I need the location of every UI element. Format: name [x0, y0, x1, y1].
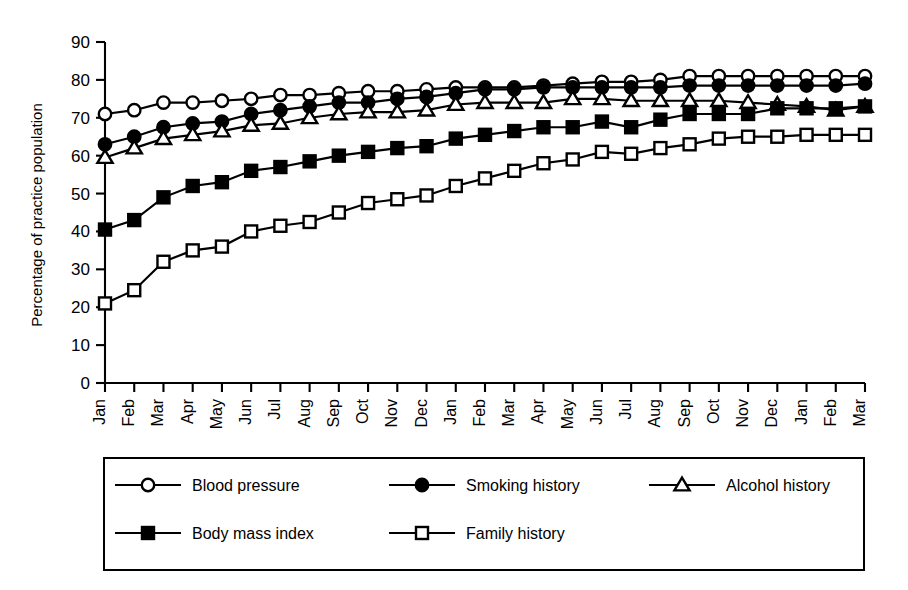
- x-tick-label: Nov: [734, 399, 751, 427]
- legend-item[interactable]: Family history: [389, 525, 565, 542]
- data-point-marker: [128, 214, 140, 226]
- legend-border: [104, 458, 864, 570]
- x-tick-label: Oct: [354, 398, 371, 423]
- x-tick-label: Feb: [120, 399, 137, 427]
- x-tick-label: Dec: [763, 399, 780, 427]
- x-tick-label: Sep: [676, 399, 693, 428]
- data-point-marker: [304, 216, 316, 228]
- x-tick-label: Feb: [471, 399, 488, 427]
- y-tick-label: 90: [71, 33, 90, 52]
- data-point-marker: [771, 79, 783, 91]
- data-point-marker: [830, 129, 842, 141]
- data-point-marker: [859, 100, 871, 112]
- data-point-marker: [187, 180, 199, 192]
- x-tick-label: Apr: [529, 398, 546, 424]
- data-point-marker: [304, 155, 316, 167]
- data-point-marker: [713, 133, 725, 145]
- data-point-marker: [274, 220, 286, 232]
- data-point-marker: [537, 157, 549, 169]
- data-point-marker: [157, 191, 169, 203]
- chart-svg: Percentage of practice population 010203…: [0, 0, 908, 590]
- data-point-marker: [800, 79, 812, 91]
- data-point-marker: [684, 138, 696, 150]
- data-point-marker: [830, 79, 842, 91]
- data-point-marker: [859, 129, 871, 141]
- data-point-marker: [830, 102, 842, 114]
- data-point-marker: [771, 131, 783, 143]
- x-tick-label: Jan: [91, 399, 108, 425]
- data-point-marker: [187, 244, 199, 256]
- data-point-marker: [391, 142, 403, 154]
- y-tick-label: 50: [71, 185, 90, 204]
- x-tick-label: Jan: [442, 399, 459, 425]
- data-point-marker: [216, 95, 228, 107]
- data-point-marker: [333, 207, 345, 219]
- data-point-marker: [362, 146, 374, 158]
- data-point-marker: [128, 104, 140, 116]
- x-tick-label: Feb: [822, 399, 839, 427]
- legend-item[interactable]: Blood pressure: [115, 477, 300, 494]
- data-point-marker: [157, 256, 169, 268]
- legend-item[interactable]: Body mass index: [115, 525, 314, 542]
- data-point-marker: [684, 108, 696, 120]
- y-tick-label: 60: [71, 147, 90, 166]
- data-point-marker: [245, 225, 257, 237]
- data-point-marker: [508, 125, 520, 137]
- data-point-marker: [801, 129, 813, 141]
- data-point-marker: [537, 121, 549, 133]
- data-point-marker: [157, 96, 169, 108]
- y-tick-label: 80: [71, 71, 90, 90]
- data-point-marker: [567, 121, 579, 133]
- legend-marker: [142, 527, 154, 539]
- data-point-marker: [274, 161, 286, 173]
- data-point-marker: [801, 102, 813, 114]
- series-line: [105, 135, 865, 304]
- data-point-marker: [683, 79, 695, 91]
- data-point-marker: [771, 102, 783, 114]
- chart-series: [99, 129, 871, 310]
- data-point-marker: [742, 131, 754, 143]
- legend-marker: [416, 479, 428, 491]
- data-point-marker: [654, 142, 666, 154]
- x-tick-label: Dec: [413, 399, 430, 427]
- x-tick-label: Sep: [325, 399, 342, 428]
- data-point-marker: [99, 108, 111, 120]
- data-point-marker: [596, 116, 608, 128]
- data-point-marker: [333, 150, 345, 162]
- x-tick-label: Mar: [500, 398, 517, 426]
- chart-legend: Blood pressureSmoking historyAlcohol his…: [104, 458, 864, 570]
- y-axis-title: Percentage of practice population: [28, 103, 45, 326]
- data-point-marker: [596, 146, 608, 158]
- y-tick-label: 0: [81, 374, 90, 393]
- x-tick-label: Apr: [179, 398, 196, 424]
- data-point-marker: [742, 108, 754, 120]
- data-point-marker: [479, 172, 491, 184]
- legend-label: Family history: [466, 525, 565, 542]
- x-tick-label: Mar: [149, 398, 166, 426]
- data-point-marker: [128, 284, 140, 296]
- legend-label: Smoking history: [466, 477, 580, 494]
- data-point-marker: [537, 81, 549, 93]
- x-tick-label: Aug: [646, 399, 663, 427]
- series-layer: [97, 70, 872, 310]
- x-tick-label: Jul: [617, 399, 634, 419]
- legend-item[interactable]: Alcohol history: [649, 477, 830, 494]
- x-tick-label: May: [559, 399, 576, 429]
- data-point-marker: [625, 148, 637, 160]
- data-point-marker: [625, 121, 637, 133]
- y-tick-label: 30: [71, 260, 90, 279]
- data-point-marker: [216, 176, 228, 188]
- data-point-marker: [274, 89, 286, 101]
- x-tick-label: Mar: [851, 398, 868, 426]
- data-point-marker: [713, 79, 725, 91]
- y-tick-label: 10: [71, 336, 90, 355]
- data-point-marker: [421, 140, 433, 152]
- data-point-marker: [99, 297, 111, 309]
- data-point-marker: [567, 153, 579, 165]
- data-point-marker: [654, 114, 666, 126]
- data-point-marker: [216, 241, 228, 253]
- data-point-marker: [391, 193, 403, 205]
- data-point-marker: [713, 108, 725, 120]
- x-axis-ticks: JanFebMarAprMayJunJulAugSepOctNovDecJanF…: [91, 383, 868, 429]
- legend-item[interactable]: Smoking history: [389, 477, 580, 494]
